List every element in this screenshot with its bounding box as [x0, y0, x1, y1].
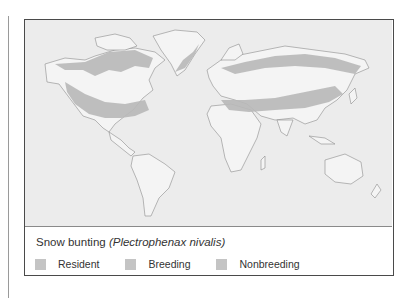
legend-label: Breeding — [148, 258, 190, 270]
nonbreeding-swatch-icon — [216, 259, 227, 270]
margin-rule — [8, 16, 9, 298]
resident-swatch-icon — [35, 259, 46, 270]
world-map-svg — [25, 20, 392, 226]
species-title: Snow bunting (Plectrophenax nivalis) — [36, 236, 225, 248]
breeding-swatch-icon — [125, 259, 136, 270]
map-figure: Snow bunting (Plectrophenax nivalis) Res… — [24, 19, 394, 276]
legend-item-breeding: Breeding — [125, 258, 190, 270]
legend-item-nonbreeding: Nonbreeding — [216, 258, 299, 270]
species-scientific-name: (Plectrophenax nivalis) — [109, 236, 225, 248]
legend-item-resident: Resident — [35, 258, 99, 270]
legend-label: Resident — [58, 258, 99, 270]
legend-label: Nonbreeding — [239, 258, 299, 270]
world-range-map — [25, 20, 392, 227]
map-legend: Snow bunting (Plectrophenax nivalis) Res… — [25, 227, 392, 275]
species-common-name: Snow bunting — [36, 236, 106, 248]
legend-items: Resident Breeding Nonbreeding — [35, 258, 326, 270]
